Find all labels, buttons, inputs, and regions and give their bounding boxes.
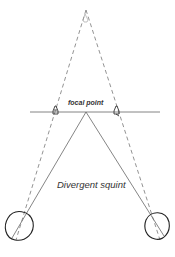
left-dashed-line bbox=[16, 10, 86, 240]
right-dashed-line bbox=[86, 10, 160, 240]
focal-point-label: focal point bbox=[68, 99, 103, 106]
divergent-squint-diagram bbox=[0, 0, 175, 257]
divergent-squint-caption: Divergent squint bbox=[57, 179, 126, 190]
right-eye-icon bbox=[145, 213, 169, 240]
distant-object-icon bbox=[83, 14, 88, 22]
left-object-icon bbox=[53, 106, 58, 114]
